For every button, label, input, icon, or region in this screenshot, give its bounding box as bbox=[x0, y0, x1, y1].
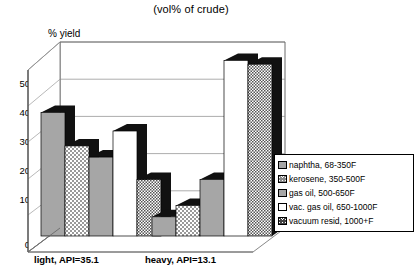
legend-swatch-kerosene bbox=[278, 175, 287, 183]
legend-item-vacuumresid: vacuum resid, 1000+F bbox=[278, 214, 410, 228]
x-axis-label-heavy: heavy, API=13.1 bbox=[145, 254, 216, 265]
legend-item-gasoil: gas oil, 500-650F bbox=[278, 186, 410, 200]
legend-label-gasoil: gas oil, 500-650F bbox=[289, 189, 355, 198]
legend-item-naphtha: naphtha, 68-350F bbox=[278, 158, 410, 172]
legend-swatch-vacgasoil bbox=[278, 203, 287, 211]
legend-label-kerosene: kerosene, 350-500F bbox=[289, 175, 365, 184]
legend-item-kerosene: kerosene, 350-500F bbox=[278, 172, 410, 186]
legend-label-naphtha: naphtha, 68-350F bbox=[289, 161, 356, 170]
x-axis-label-light: light, API=35.1 bbox=[34, 254, 99, 265]
legend-label-vacuumresid: vacuum resid, 1000+F bbox=[289, 217, 373, 226]
legend-swatch-vacuumresid bbox=[278, 217, 287, 225]
legend-swatch-gasoil bbox=[278, 189, 287, 197]
legend-label-vacgasoil: vac. gas oil, 650-1000F bbox=[289, 203, 377, 212]
chart-container: (vol% of crude) % yield 50 40 30 20 10 0 bbox=[0, 0, 418, 277]
plot-area bbox=[0, 0, 418, 277]
legend: naphtha, 68-350F kerosene, 350-500F gas … bbox=[274, 154, 414, 232]
legend-swatch-naphtha bbox=[278, 161, 287, 169]
legend-item-vacgasoil: vac. gas oil, 650-1000F bbox=[278, 200, 410, 214]
